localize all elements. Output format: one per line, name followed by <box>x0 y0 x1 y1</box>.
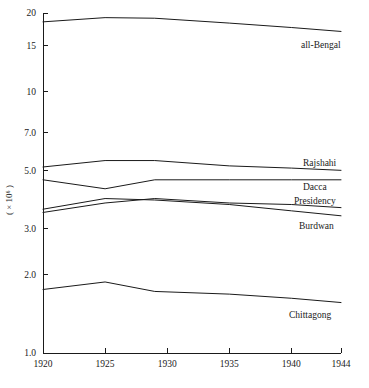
y-axis-ticks <box>43 13 48 353</box>
series-line-all-bengal <box>43 18 341 32</box>
y-axis-tick-labels: 1.02.03.05.07.0101520 <box>24 8 36 358</box>
x-axis-tick-labels: 192019251930193519401944 <box>34 359 351 369</box>
series-label-chittagong: Chittagong <box>289 310 331 320</box>
x-tick-label: 1944 <box>332 359 351 369</box>
x-tick-label: 1925 <box>96 359 115 369</box>
y-tick-label: 10 <box>27 87 37 97</box>
x-tick-label: 1940 <box>282 359 301 369</box>
y-tick-label: 7.0 <box>24 128 36 138</box>
series-line-chittagong <box>43 282 341 303</box>
series-line-dacca <box>43 180 341 189</box>
y-tick-label: 5.0 <box>24 166 36 176</box>
x-tick-label: 1930 <box>158 359 177 369</box>
y-tick-label: 15 <box>27 41 37 51</box>
y-tick-label: 2.0 <box>24 270 36 280</box>
y-tick-label: 20 <box>27 8 37 18</box>
line-chart: 1.02.03.05.07.0101520 192019251930193519… <box>0 0 369 388</box>
x-tick-label: 1920 <box>34 359 53 369</box>
series-label-presidency: Presidency <box>294 196 336 206</box>
axis-lines <box>43 13 341 353</box>
x-axis-ticks <box>43 348 341 353</box>
y-tick-label: 1.0 <box>24 348 36 358</box>
x-tick-label: 1935 <box>220 359 239 369</box>
chart-canvas: 1.02.03.05.07.0101520 192019251930193519… <box>0 0 369 388</box>
series-label-burdwan: Burdwan <box>299 221 334 231</box>
series-lines <box>43 18 341 303</box>
series-label-all-bengal: all-Bengal <box>301 40 341 50</box>
plot-axes <box>43 13 341 353</box>
y-axis-title: ( × 10⁶ ) <box>4 185 14 215</box>
series-line-rajshahi <box>43 161 341 171</box>
series-label-rajshahi: Rajshahi <box>303 158 337 168</box>
series-label-dacca: Dacca <box>303 182 328 192</box>
y-tick-label: 3.0 <box>24 224 36 234</box>
